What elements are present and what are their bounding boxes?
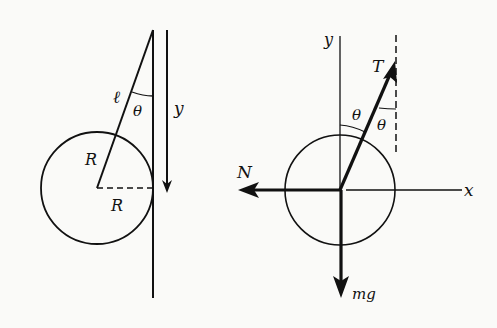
- label-theta-left: θ: [133, 102, 142, 120]
- label-R-slant: R: [84, 150, 97, 169]
- left-panel: ℓ θ y R R: [41, 30, 184, 298]
- label-N: N: [236, 162, 253, 182]
- label-theta-right-1: θ: [352, 106, 361, 124]
- label-mg: mg: [352, 285, 376, 303]
- theta-arc: [132, 92, 153, 96]
- label-y-left: y: [173, 98, 184, 118]
- tension-arrow-head: [383, 61, 397, 83]
- theta-arc-left: [340, 125, 365, 132]
- physics-diagram: ℓ θ y R R y T θ θ N x mg: [0, 0, 497, 328]
- label-ell: ℓ: [113, 87, 120, 107]
- label-x: x: [464, 180, 474, 200]
- string-line: [97, 30, 153, 188]
- right-panel: y T θ θ N x mg: [236, 30, 474, 303]
- theta-arc-right: [379, 108, 396, 109]
- label-T: T: [372, 56, 385, 76]
- label-y-right: y: [323, 30, 334, 49]
- label-theta-right-2: θ: [377, 116, 386, 134]
- label-R-horizontal: R: [110, 196, 123, 215]
